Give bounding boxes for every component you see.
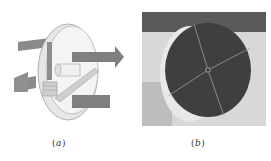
caption-b: (b)	[191, 138, 205, 148]
rotary-wheel-diagram-icon	[0, 0, 135, 125]
caption-a: (a)	[52, 138, 66, 148]
panel-a-wheel-diagram	[0, 0, 135, 125]
desiccant-wheel-photo-icon	[142, 12, 266, 126]
panel-b-wheel-photo	[142, 12, 266, 126]
